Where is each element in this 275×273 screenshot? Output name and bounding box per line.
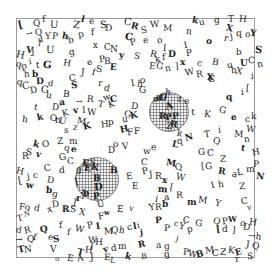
letter-glyph: g bbox=[163, 250, 170, 260]
letter-glyph: V bbox=[25, 46, 33, 56]
letter-glyph: y bbox=[119, 51, 125, 60]
letter-glyph: M bbox=[234, 130, 244, 139]
letter-glyph: N bbox=[255, 171, 264, 181]
letter-glyph: m bbox=[152, 93, 162, 102]
letter-glyph: V bbox=[50, 245, 57, 254]
letter-glyph: j bbox=[140, 228, 144, 236]
letter-glyph: N bbox=[23, 211, 30, 219]
letter-glyph: D bbox=[51, 102, 60, 112]
letter-glyph: e bbox=[150, 143, 156, 153]
letter-glyph: Q bbox=[39, 225, 48, 235]
letter-glyph: G bbox=[194, 218, 203, 228]
letter-glyph: R bbox=[87, 95, 94, 104]
letter-glyph: m bbox=[187, 198, 197, 207]
letter-glyph: J bbox=[81, 68, 85, 77]
letter-glyph: i bbox=[28, 58, 32, 66]
letter-glyph: h bbox=[217, 180, 224, 190]
letter-glyph: D bbox=[51, 200, 59, 210]
letter-glyph: v bbox=[128, 205, 134, 214]
letter-glyph: Q bbox=[213, 137, 221, 147]
letter-glyph: R bbox=[176, 191, 183, 200]
letter-glyph: J bbox=[90, 253, 94, 262]
letter-glyph: S bbox=[52, 235, 60, 245]
letter-glyph: R bbox=[169, 119, 178, 129]
letter-glyph: S bbox=[247, 252, 254, 261]
letter-glyph: C bbox=[43, 163, 51, 173]
letter-glyph: a bbox=[156, 241, 162, 250]
letter-glyph: W bbox=[228, 215, 238, 224]
letter-glyph: Y bbox=[249, 29, 257, 39]
letter-glyph: u bbox=[198, 17, 206, 27]
letter-glyph: x bbox=[93, 41, 99, 50]
letter-glyph: E bbox=[117, 205, 124, 214]
captcha-canvas[interactable]: [QfUZleSDCRSWMnkugTHX→QYPhbpfxCPeoIorjqo… bbox=[0, 0, 275, 273]
letter-glyph: Z bbox=[220, 155, 227, 164]
letter-glyph: W bbox=[87, 108, 97, 117]
letter-glyph: i bbox=[251, 72, 255, 81]
letter-glyph: R bbox=[62, 205, 70, 214]
letter-glyph: P bbox=[164, 224, 170, 233]
letter-glyph: q bbox=[225, 93, 232, 103]
letter-glyph: q bbox=[176, 136, 184, 146]
letter-glyph: B bbox=[141, 253, 148, 261]
letter-glyph: R bbox=[195, 70, 203, 80]
letter-glyph: L bbox=[109, 257, 115, 266]
letter-glyph: s bbox=[64, 126, 69, 135]
letter-glyph: K bbox=[203, 110, 211, 120]
letter-glyph: C bbox=[207, 149, 214, 158]
letter-glyph: E bbox=[110, 63, 117, 72]
letter-glyph: E bbox=[132, 182, 139, 191]
letter-glyph: A bbox=[76, 254, 84, 264]
letter-glyph: S bbox=[70, 205, 77, 215]
letter-glyph: R bbox=[137, 239, 146, 249]
letter-glyph: V bbox=[122, 142, 129, 152]
letter-glyph: P bbox=[253, 160, 259, 169]
letter-glyph: U bbox=[50, 20, 59, 30]
letter-glyph: w bbox=[26, 181, 35, 191]
letter-glyph: O bbox=[41, 139, 50, 149]
letter-glyph: → bbox=[25, 29, 33, 38]
letter-glyph: P bbox=[185, 49, 192, 59]
letter-glyph: o bbox=[157, 36, 163, 45]
letter-glyph: f bbox=[42, 15, 46, 24]
letter-glyph: [ bbox=[216, 225, 221, 234]
letter-glyph: t bbox=[191, 108, 195, 117]
letter-glyph: P bbox=[52, 32, 59, 41]
letter-glyph: S bbox=[255, 45, 263, 56]
letter-glyph: n bbox=[256, 59, 264, 69]
letter-glyph: e bbox=[230, 113, 237, 123]
letter-glyph: k bbox=[124, 251, 132, 261]
letter-glyph: B bbox=[211, 57, 219, 67]
letter-glyph: E bbox=[66, 254, 74, 264]
letter-glyph: M bbox=[197, 195, 207, 205]
letter-glyph: N bbox=[110, 45, 118, 54]
letter-glyph: K bbox=[129, 110, 138, 120]
letter-glyph: h bbox=[21, 115, 28, 125]
letter-glyph: C bbox=[212, 249, 219, 258]
letter-glyph: K bbox=[82, 121, 92, 132]
letter-glyph: D bbox=[168, 50, 176, 59]
letter-glyph: Z bbox=[239, 182, 246, 191]
letter-glyph: k bbox=[251, 112, 257, 121]
letter-glyph: G bbox=[139, 86, 146, 95]
letter-glyph: D bbox=[108, 146, 116, 155]
letter-glyph: w bbox=[104, 209, 110, 216]
letter-glyph: B bbox=[195, 249, 205, 260]
letter-glyph: H bbox=[251, 147, 261, 158]
letter-glyph: h bbox=[23, 70, 30, 80]
letter-glyph: H bbox=[62, 58, 71, 68]
letter-glyph: f bbox=[59, 221, 63, 230]
letter-glyph: E bbox=[125, 172, 133, 182]
letter-glyph: B bbox=[93, 174, 101, 183]
letter-glyph: L bbox=[236, 168, 243, 178]
letter-glyph: m bbox=[118, 242, 127, 251]
letter-glyph: p bbox=[186, 224, 194, 234]
letter-glyph: W bbox=[175, 172, 186, 183]
letter-glyph: D bbox=[105, 24, 113, 33]
letter-glyph: R bbox=[155, 172, 162, 181]
letter-glyph: G bbox=[205, 162, 213, 171]
letter-glyph: C bbox=[208, 75, 216, 85]
letter-glyph: g bbox=[214, 16, 221, 26]
letter-glyph: n bbox=[185, 27, 192, 37]
letter-glyph: i bbox=[218, 126, 221, 135]
